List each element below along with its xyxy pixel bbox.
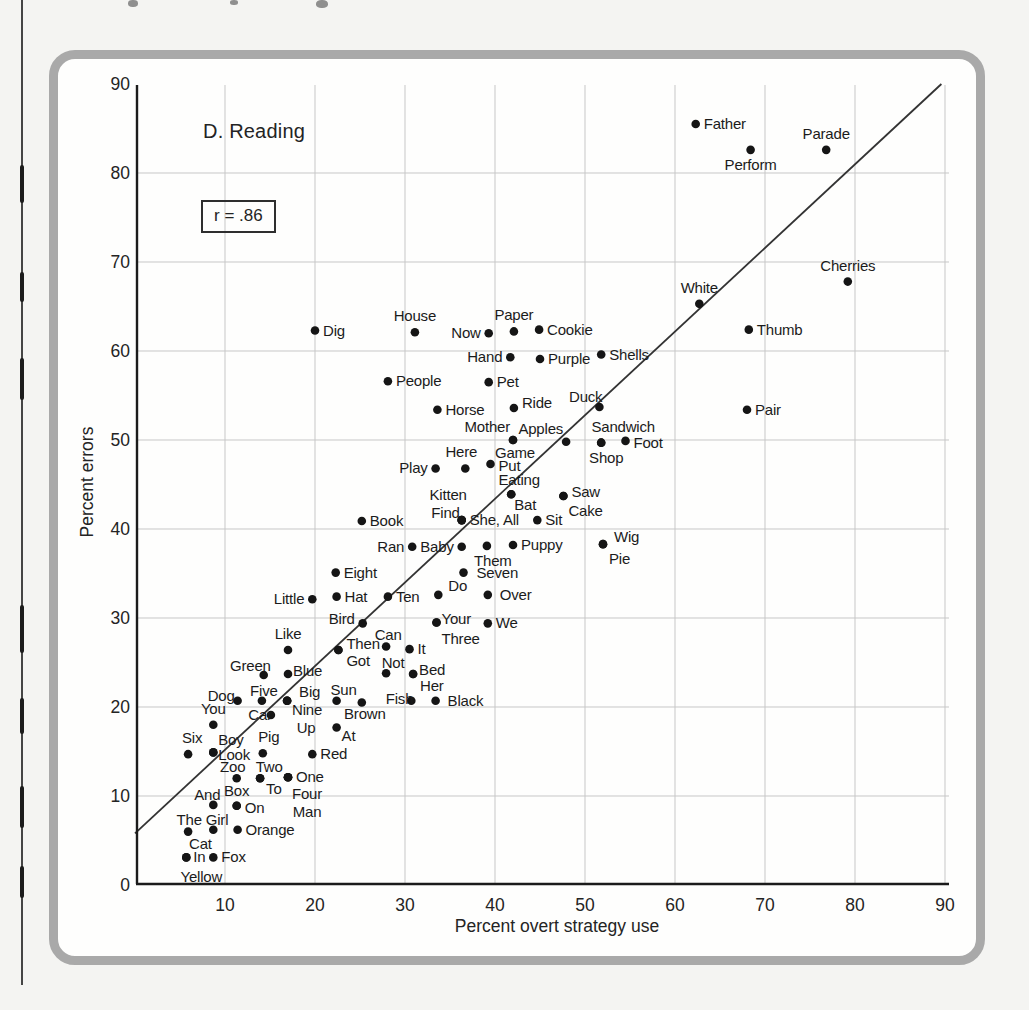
- point-label: Perform: [725, 157, 777, 172]
- point-label: Her: [420, 678, 444, 693]
- data-point: [232, 801, 241, 810]
- point-label: Shop: [589, 450, 623, 465]
- y-tick-label: 60: [88, 341, 130, 362]
- point-label: Ten: [396, 589, 420, 604]
- point-label: Bat: [514, 497, 536, 512]
- point-label: Nine: [292, 702, 322, 717]
- data-point: [182, 853, 191, 862]
- data-point: [746, 146, 755, 155]
- data-point: [332, 723, 341, 732]
- data-point: [483, 542, 492, 551]
- x-tick-label: 70: [755, 895, 774, 916]
- point-label: Like: [275, 626, 302, 641]
- y-tick-label: 20: [88, 697, 130, 718]
- data-point: [822, 146, 831, 155]
- point-label: Over: [500, 587, 532, 602]
- data-point: [484, 619, 493, 628]
- point-label: Car: [248, 707, 272, 722]
- point-label: Pie: [609, 551, 630, 566]
- data-point: [597, 350, 606, 359]
- data-point: [510, 404, 519, 413]
- data-point: [284, 773, 293, 782]
- point-label: Blue: [293, 663, 322, 678]
- point-label: Box: [224, 783, 249, 798]
- y-tick-label: 50: [88, 430, 130, 451]
- data-point: [411, 328, 420, 337]
- data-point: [536, 355, 545, 364]
- y-tick-label: 90: [88, 74, 130, 95]
- data-point: [358, 619, 367, 628]
- data-point: [259, 749, 268, 758]
- data-point: [431, 464, 440, 473]
- y-tick-label: 80: [88, 163, 130, 184]
- point-label: Pig: [258, 729, 279, 744]
- data-point: [484, 591, 493, 600]
- x-tick-label: 50: [575, 895, 594, 916]
- data-point: [308, 750, 317, 759]
- point-label: Hat: [345, 589, 368, 604]
- point-label: Sit: [545, 512, 562, 527]
- data-point: [311, 326, 320, 335]
- point-label: She, All: [470, 512, 519, 527]
- point-label: Not: [382, 655, 405, 670]
- point-label: Three: [442, 631, 480, 646]
- y-tick-label: 70: [88, 252, 130, 273]
- point-label: In: [193, 850, 205, 865]
- point-label: The Girl: [177, 812, 229, 827]
- point-label: Man: [293, 804, 322, 819]
- point-label: Paper: [494, 307, 533, 322]
- point-label: We: [496, 616, 518, 631]
- y-tick-label: 40: [88, 519, 130, 540]
- data-point: [621, 437, 630, 446]
- point-label: And: [194, 787, 220, 802]
- x-tick-label: 30: [395, 895, 414, 916]
- point-label: Do: [448, 578, 467, 593]
- point-label: Cake: [568, 503, 602, 518]
- point-label: Boy: [218, 732, 243, 747]
- point-label: Pet: [497, 374, 519, 389]
- x-tick-label: 10: [215, 895, 234, 916]
- x-tick-label: 90: [935, 895, 954, 916]
- point-label: Red: [320, 746, 347, 761]
- scanned-page: D. Reading r = .86 Percent errors Percen…: [0, 0, 1029, 1010]
- data-point: [209, 721, 218, 730]
- point-label: Orange: [246, 822, 295, 837]
- point-label: Two: [256, 759, 283, 774]
- point-label: Your: [442, 611, 472, 626]
- point-label: Bird: [329, 612, 355, 627]
- data-point: [382, 642, 391, 651]
- point-label: Purple: [548, 351, 590, 366]
- data-point: [691, 120, 700, 129]
- correlation-box: r = .86: [201, 200, 276, 233]
- point-label: On: [245, 800, 265, 815]
- point-label: Green: [230, 658, 271, 673]
- x-axis-label: Percent overt strategy use: [455, 916, 659, 937]
- data-point: [332, 592, 341, 601]
- point-label: Horse: [445, 402, 484, 417]
- point-label: Ran: [377, 539, 404, 554]
- data-point: [506, 353, 515, 362]
- point-label: At: [342, 728, 356, 743]
- data-point: [283, 696, 292, 705]
- data-point: [432, 618, 441, 627]
- point-label: Bed: [419, 662, 445, 677]
- point-label: Play: [399, 461, 427, 476]
- y-tick-label: 30: [88, 608, 130, 629]
- point-label: Brown: [344, 706, 386, 721]
- point-label: Wig: [614, 529, 639, 544]
- point-label: Big: [299, 684, 320, 699]
- point-label: Thumb: [757, 322, 803, 337]
- point-label: Sun: [331, 682, 357, 697]
- point-label: Dig: [323, 323, 345, 338]
- data-point: [459, 568, 468, 577]
- data-point: [384, 592, 393, 601]
- point-label: Six: [182, 730, 202, 745]
- data-point: [433, 405, 442, 414]
- y-tick-label: 0: [88, 875, 130, 896]
- data-point: [384, 377, 393, 386]
- point-label: Sandwich: [591, 419, 654, 434]
- point-label: House: [394, 308, 436, 323]
- data-point: [695, 300, 704, 309]
- data-point: [535, 325, 544, 334]
- panel-title: D. Reading: [203, 120, 305, 143]
